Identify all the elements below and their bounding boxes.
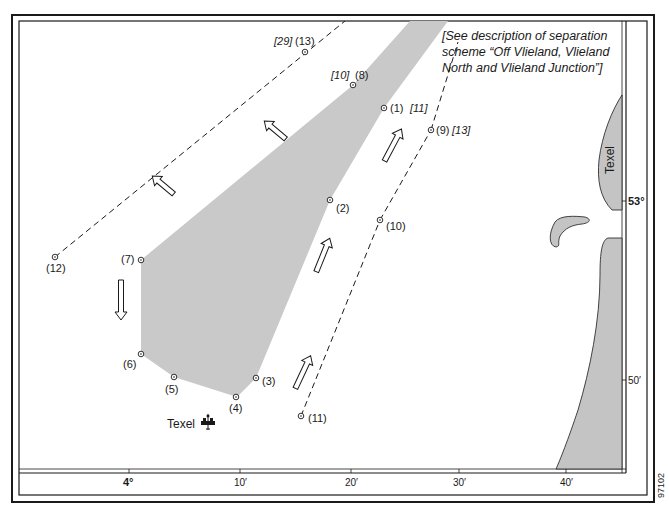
point-7-label: (7) (121, 253, 134, 265)
point-1-ref: [11] (409, 102, 428, 114)
arrow-sw-1-icon (260, 116, 289, 143)
lon-tick-10: 10′ (234, 477, 247, 488)
point-6-label: (6) (123, 358, 136, 370)
mainland-land (556, 238, 622, 469)
traffic-zone-polygon (141, 21, 448, 397)
point-5-label: (5) (165, 383, 178, 395)
lon-tick-40: 40′ (560, 477, 573, 488)
point-9-label: (9) (436, 124, 449, 136)
arrow-ne-2-icon (311, 236, 336, 274)
arrow-sw-2-icon (148, 171, 177, 198)
lon-tick-4deg: 4° (123, 476, 134, 488)
arrow-south-icon (115, 280, 127, 320)
note-line-3: North and Vlieland Junction”] (442, 61, 603, 75)
chart-map: (1) [11] (2) (3) (4) (5) (6) (7) [10] (8… (0, 0, 669, 511)
point-13-label: (13) (295, 35, 315, 47)
note-line-2: scheme “Off Vlieland, Vlieland (442, 45, 610, 59)
boundary-line-11-10 (301, 220, 380, 416)
point-3-label: (3) (262, 375, 275, 387)
point-4-label: (4) (229, 402, 242, 414)
lightvessel-icon (201, 414, 215, 430)
point-1-label: (1) (390, 102, 403, 114)
note-line-1: [See description of separation (441, 29, 607, 43)
lon-tick-30: 30′ (453, 477, 466, 488)
point-13-ref: [29] (273, 35, 293, 47)
lat-tick-50: 50′ (628, 375, 641, 386)
inner-frame (19, 21, 647, 495)
boundary-line-10-9 (380, 130, 431, 220)
lat-tick-53deg: 53° (628, 195, 645, 207)
figure-id: 97102 (656, 473, 666, 498)
point-8-ref: [10] (330, 69, 350, 81)
point-9-ref: [13] (451, 124, 471, 136)
texel-island-label: Texel (603, 146, 617, 174)
arrow-ne-3-icon (290, 353, 316, 391)
islet-land (550, 216, 589, 247)
arrow-ne-1-icon (379, 126, 406, 163)
texel-lightvessel-label: Texel (167, 417, 195, 431)
point-2-label: (2) (336, 202, 349, 214)
point-10-label: (10) (386, 220, 406, 232)
point-12-label: (12) (46, 262, 66, 274)
point-8-label: (8) (355, 69, 368, 81)
lon-tick-20: 20′ (345, 477, 358, 488)
outer-frame (12, 15, 654, 502)
point-11-label: (11) (308, 412, 327, 424)
